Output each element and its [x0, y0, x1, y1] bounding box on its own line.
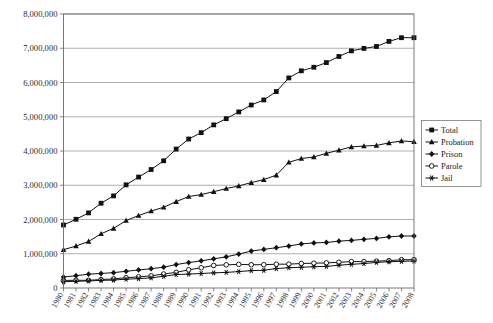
- legend-label: Total: [441, 126, 459, 135]
- data-point-open-circle: [274, 262, 279, 267]
- data-point-open-circle: [429, 164, 434, 169]
- data-point-filled-square: [261, 98, 266, 103]
- data-point-filled-square: [186, 137, 191, 142]
- data-point-filled-square: [224, 116, 229, 121]
- y-axis-tick-label: 7,000,000: [23, 43, 57, 53]
- data-point-filled-square: [136, 175, 141, 180]
- legend-label: Prison: [441, 150, 463, 159]
- data-point-filled-square: [111, 193, 116, 198]
- data-point-filled-square: [311, 65, 316, 70]
- data-point-filled-square: [161, 158, 166, 163]
- data-point-filled-square: [429, 128, 434, 133]
- data-point-filled-square: [274, 89, 279, 94]
- y-axis-tick-label: 8,000,000: [23, 9, 57, 19]
- data-point-filled-square: [324, 60, 329, 65]
- y-axis-tick-label: 1,000,000: [23, 249, 57, 259]
- legend-label: Parole: [441, 162, 463, 171]
- data-point-filled-square: [174, 147, 179, 152]
- data-point-open-circle: [236, 262, 241, 267]
- y-axis-tick-label: 6,000,000: [23, 78, 57, 88]
- data-point-filled-square: [86, 211, 91, 216]
- y-axis-tick-label: 4,000,000: [23, 146, 57, 156]
- data-point-filled-square: [199, 130, 204, 135]
- y-axis-tick-label: 5,000,000: [23, 112, 57, 122]
- data-point-filled-square: [286, 76, 291, 81]
- data-point-filled-square: [336, 54, 341, 59]
- legend-label: Probation: [441, 138, 474, 147]
- data-point-filled-square: [99, 201, 104, 206]
- data-point-filled-square: [124, 182, 129, 187]
- chart-container: 01,000,0002,000,0003,000,0004,000,0005,0…: [0, 0, 493, 323]
- data-point-open-circle: [211, 263, 216, 268]
- data-point-filled-square: [349, 48, 354, 53]
- data-point-open-circle: [261, 262, 266, 267]
- data-point-open-circle: [337, 260, 342, 265]
- data-point-open-circle: [199, 265, 204, 270]
- y-axis-tick-labels: 01,000,0002,000,0003,000,0004,000,0005,0…: [23, 9, 57, 293]
- data-point-filled-square: [399, 35, 404, 40]
- data-point-filled-square: [387, 39, 392, 44]
- data-point-filled-square: [362, 46, 367, 51]
- y-axis-tick-label: 2,000,000: [23, 215, 57, 225]
- chart-legend: TotalProbationPrisonParoleJail: [422, 121, 482, 187]
- legend-label: Jail: [441, 174, 453, 183]
- data-point-filled-square: [374, 44, 379, 49]
- y-axis-tick-label: 3,000,000: [23, 180, 57, 190]
- data-point-filled-square: [74, 217, 79, 222]
- data-point-filled-square: [149, 167, 154, 172]
- data-point-open-circle: [224, 263, 229, 268]
- line-chart: 01,000,0002,000,0003,000,0004,000,0005,0…: [0, 0, 493, 323]
- data-point-open-circle: [186, 267, 191, 272]
- data-point-filled-square: [211, 122, 216, 127]
- data-point-filled-square: [249, 103, 254, 108]
- data-point-filled-square: [299, 68, 304, 73]
- data-point-filled-square: [236, 110, 241, 115]
- data-point-open-circle: [349, 259, 354, 264]
- data-point-open-circle: [249, 262, 254, 267]
